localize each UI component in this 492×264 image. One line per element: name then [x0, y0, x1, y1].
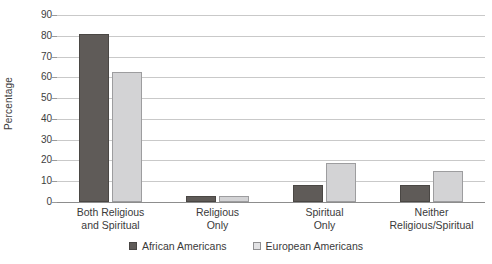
x-axis-category-label: NeitherReligious/Spiritual — [362, 206, 492, 232]
y-axis-tick-label: 50 — [12, 93, 52, 103]
x-axis-baseline — [57, 202, 485, 203]
bar — [219, 196, 249, 202]
bar — [326, 163, 356, 202]
bar — [112, 72, 142, 202]
y-axis-tick-label: 70 — [12, 52, 52, 62]
bar-group — [186, 15, 249, 202]
legend-item: African Americans — [129, 240, 227, 252]
y-axis-tick-label: 80 — [12, 31, 52, 41]
bar-group — [400, 15, 463, 202]
y-axis-tick-label: 10 — [12, 176, 52, 186]
y-axis-tick-labels: 9080706050403020100 — [8, 15, 52, 202]
y-axis-tick-label: 20 — [12, 155, 52, 165]
bar — [186, 196, 216, 202]
bar — [79, 34, 109, 202]
legend-label: African Americans — [142, 240, 227, 252]
y-axis-tick-label: 60 — [12, 72, 52, 82]
y-axis-tick-label: 40 — [12, 114, 52, 124]
bar — [400, 185, 430, 202]
x-axis-category-label-line: Neither — [362, 206, 492, 219]
bar — [433, 171, 463, 202]
legend-item: European Americans — [253, 240, 363, 252]
bar — [293, 185, 323, 202]
chart-legend: African AmericansEuropean Americans — [0, 240, 492, 252]
bar-group — [79, 15, 142, 202]
legend-swatch-icon — [253, 242, 261, 250]
bar-chart: Percentage 9080706050403020100 Both Reli… — [0, 0, 492, 264]
legend-label: European Americans — [266, 240, 363, 252]
plot-area — [57, 15, 485, 202]
y-axis-tick-label: 30 — [12, 135, 52, 145]
y-axis-tick-label: 90 — [12, 10, 52, 20]
x-axis-category-label-line: Religious/Spiritual — [362, 219, 492, 232]
bar-group — [293, 15, 356, 202]
legend-swatch-icon — [129, 242, 137, 250]
x-axis-category-labels: Both Religiousand SpiritualReligiousOnly… — [57, 206, 485, 238]
